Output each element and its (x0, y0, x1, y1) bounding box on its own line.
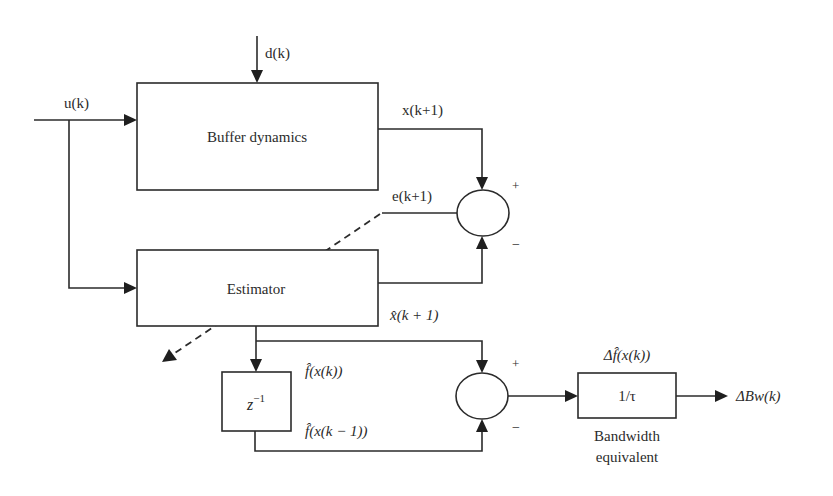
arrow-head-icon (565, 390, 578, 402)
output-label: ΔBw(k) (735, 388, 781, 405)
bandwidth-equivalent-block: 1/τ Bandwidth equivalent (578, 373, 676, 465)
estimate-next-label: x̂(k + 1) (389, 307, 438, 324)
buffer-dynamics-block: Buffer dynamics (137, 83, 378, 190)
estimator-block: Estimator (137, 250, 378, 326)
f-hat-k-minus-1-label: f̂(x(k − 1)) (305, 423, 368, 440)
arrow-head-icon (250, 359, 262, 372)
input-label: u(k) (64, 95, 89, 112)
state-next-label: x(k+1) (402, 102, 443, 119)
arrow-head-icon (476, 236, 488, 249)
block-diagram: u(k) d(k) Buffer dynamics x(k+1) + − e(k… (0, 0, 833, 496)
plus-sign: + (512, 356, 519, 371)
disturbance-label: d(k) (265, 45, 290, 62)
plus-sign: + (512, 178, 519, 193)
input-signal: u(k) (34, 95, 137, 126)
state-next-signal: x(k+1) (378, 102, 488, 190)
disturbance-signal: d(k) (251, 36, 290, 83)
estimator-label: Estimator (227, 281, 285, 297)
output-signal: ΔBw(k) (676, 388, 781, 405)
arrow-head-icon (124, 282, 137, 294)
arrow-head-icon (162, 349, 177, 362)
bandwidth-caption-line1: Bandwidth (594, 428, 660, 444)
arrow-head-icon (124, 114, 137, 126)
minus-sign: − (512, 237, 520, 252)
minus-sign: − (512, 420, 520, 435)
bandwidth-caption-line2: equivalent (596, 449, 659, 465)
input-branch-to-estimator (69, 120, 137, 294)
delta-f-hat-label: Δf̂(x(k)) (603, 347, 650, 364)
f-hat-k-label: f̂(x(k)) (305, 363, 342, 380)
error-label: e(k+1) (392, 188, 432, 205)
buffer-dynamics-label: Buffer dynamics (207, 129, 307, 145)
estimate-next-signal: x̂(k + 1) (378, 236, 488, 324)
arrow-head-icon (476, 177, 488, 190)
delay-block: z−1 (222, 372, 291, 431)
arrow-head-icon (476, 360, 488, 373)
arrow-head-icon (715, 390, 728, 402)
arrow-head-icon (476, 419, 488, 432)
arrow-head-icon (251, 70, 263, 83)
error-summing-junction: + − (457, 178, 520, 252)
bandwidth-gain-label: 1/τ (618, 388, 636, 404)
